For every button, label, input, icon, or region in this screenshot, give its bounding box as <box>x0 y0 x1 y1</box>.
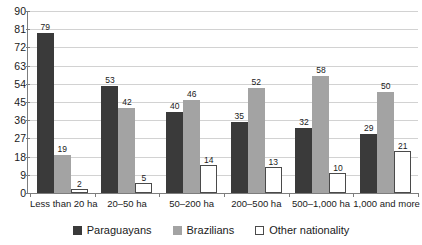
y-axis-label: 72 <box>2 42 26 52</box>
legend-label: Brazilians <box>187 224 235 236</box>
bar-other-nationality[interactable]: 13 <box>265 167 282 193</box>
bar-brazilians[interactable]: 19 <box>54 155 71 193</box>
legend-label: Other nationality <box>269 224 349 236</box>
x-axis-tick <box>353 193 354 197</box>
bar-other-nationality[interactable]: 2 <box>71 189 88 193</box>
bar-value-label: 19 <box>58 145 67 154</box>
x-axis-tick <box>30 193 31 197</box>
bar-brazilians[interactable]: 42 <box>118 108 135 193</box>
bar-paraguayans[interactable]: 29 <box>360 134 377 193</box>
white-square-icon <box>255 226 264 235</box>
x-axis-category-label: 200–500 ha <box>224 198 289 209</box>
bar-brazilians[interactable]: 58 <box>312 76 329 193</box>
x-axis-category-label: 500–1,000 ha <box>289 198 354 209</box>
y-axis-label: 18 <box>2 152 26 162</box>
bar-value-label: 32 <box>299 118 308 127</box>
bar-value-label: 50 <box>381 82 390 91</box>
bar-other-nationality[interactable]: 14 <box>200 165 217 193</box>
bar-group: 79192 <box>30 11 95 193</box>
bar-paraguayans[interactable]: 40 <box>166 112 183 193</box>
grouped-bar-chart: 7919253425404614355213325810295021 Parag… <box>0 0 422 245</box>
bar-value-label: 52 <box>252 78 261 87</box>
chart-legend: ParaguayansBraziliansOther nationality <box>0 224 422 236</box>
bar-brazilians[interactable]: 46 <box>183 100 200 193</box>
y-axis-label: 90 <box>2 6 26 16</box>
y-axis-label: 81 <box>2 24 26 34</box>
bar-value-label: 21 <box>398 142 407 151</box>
plot-area: 7919253425404614355213325810295021 <box>30 11 418 193</box>
y-axis-label: 0 <box>2 188 26 198</box>
bar-brazilians[interactable]: 52 <box>248 88 265 193</box>
x-axis-tick <box>418 193 419 197</box>
x-axis-tick <box>159 193 160 197</box>
bar-paraguayans[interactable]: 79 <box>37 33 54 193</box>
legend-item[interactable]: Other nationality <box>255 224 349 236</box>
bar-value-label: 13 <box>269 158 278 167</box>
dark-square-icon <box>73 226 82 235</box>
y-axis-label: 63 <box>2 61 26 71</box>
legend-item[interactable]: Brazilians <box>173 224 235 236</box>
bar-other-nationality[interactable]: 21 <box>394 151 411 193</box>
bar-brazilians[interactable]: 50 <box>377 92 394 193</box>
bar-paraguayans[interactable]: 32 <box>295 128 312 193</box>
bar-value-label: 42 <box>122 98 131 107</box>
bar-group: 404614 <box>159 11 224 193</box>
bar-value-label: 53 <box>105 76 114 85</box>
bar-value-label: 79 <box>41 23 50 32</box>
y-axis-label: 36 <box>2 115 26 125</box>
bar-paraguayans[interactable]: 35 <box>231 122 248 193</box>
y-axis-label: 27 <box>2 133 26 143</box>
x-axis-category-label: Less than 20 ha <box>30 198 95 209</box>
bar-value-label: 35 <box>235 112 244 121</box>
x-axis-tick <box>289 193 290 197</box>
x-axis-category-label: 50–200 ha <box>159 198 224 209</box>
x-axis-tick <box>95 193 96 197</box>
x-axis-line <box>27 193 418 194</box>
x-axis-tick <box>224 193 225 197</box>
x-axis-category-label: 20–50 ha <box>95 198 160 209</box>
bar-value-label: 10 <box>333 164 342 173</box>
bar-other-nationality[interactable]: 10 <box>329 173 346 193</box>
bar-value-label: 58 <box>316 66 325 75</box>
gray-square-icon <box>173 226 182 235</box>
y-axis-label: 45 <box>2 97 26 107</box>
bar-paraguayans[interactable]: 53 <box>101 86 118 193</box>
bar-value-label: 46 <box>187 90 196 99</box>
bar-other-nationality[interactable]: 5 <box>135 183 152 193</box>
bar-group: 325810 <box>289 11 354 193</box>
y-axis-label: 54 <box>2 79 26 89</box>
bar-value-label: 5 <box>142 174 147 183</box>
bar-group: 295021 <box>353 11 418 193</box>
bar-value-label: 29 <box>364 124 373 133</box>
bar-value-label: 40 <box>170 102 179 111</box>
legend-item[interactable]: Paraguayans <box>73 224 152 236</box>
bar-value-label: 2 <box>77 180 82 189</box>
y-axis-label: 9 <box>2 170 26 180</box>
bar-group: 355213 <box>224 11 289 193</box>
bar-value-label: 14 <box>204 156 213 165</box>
x-axis-category-label: 1,000 and more ha <box>353 198 418 209</box>
bar-group: 53425 <box>95 11 160 193</box>
legend-label: Paraguayans <box>87 224 152 236</box>
